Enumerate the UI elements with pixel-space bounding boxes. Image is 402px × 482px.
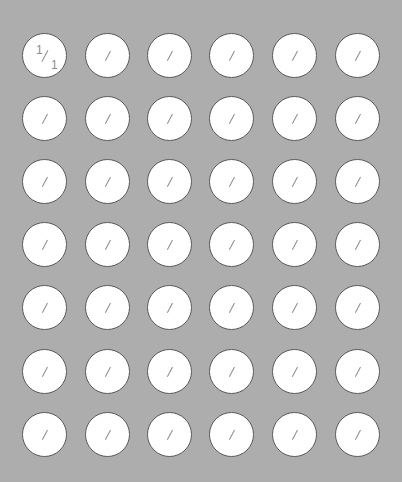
fraction-slash-icon	[228, 429, 234, 439]
fraction-slash-icon	[228, 176, 234, 186]
fraction-cell[interactable]	[209, 349, 254, 394]
fraction-slash-icon	[291, 50, 297, 60]
fraction-slash-icon	[291, 239, 297, 249]
fraction-cell[interactable]	[22, 285, 67, 330]
fraction-slash-icon	[228, 302, 234, 312]
fraction-slash-icon	[41, 429, 47, 439]
fraction-cell[interactable]	[147, 159, 192, 204]
fraction-slash-icon	[228, 239, 234, 249]
fraction-slash-icon	[228, 50, 234, 60]
fraction-slash-icon	[104, 366, 110, 376]
fraction-cell[interactable]	[147, 33, 192, 78]
fraction-cell[interactable]	[335, 285, 380, 330]
fraction-slash-icon	[166, 113, 172, 123]
fraction-slash-icon	[166, 176, 172, 186]
fraction-cell[interactable]	[335, 96, 380, 141]
fraction-cell[interactable]	[85, 159, 130, 204]
fraction-slash-icon	[291, 302, 297, 312]
fraction-cell[interactable]	[147, 96, 192, 141]
fraction-slash-icon	[291, 429, 297, 439]
fraction-slash-icon	[166, 429, 172, 439]
fraction-cell[interactable]	[335, 412, 380, 457]
fraction-slash-icon	[354, 366, 360, 376]
fraction-slash-icon	[354, 50, 360, 60]
fraction-slash-icon	[291, 176, 297, 186]
fraction-cell[interactable]	[22, 349, 67, 394]
fraction-cell[interactable]: 11	[22, 33, 67, 78]
fraction-cell[interactable]	[85, 33, 130, 78]
fraction-cell[interactable]	[22, 412, 67, 457]
fraction-slash-icon	[354, 113, 360, 123]
fraction-slash-icon	[41, 302, 47, 312]
fraction-cell[interactable]	[147, 222, 192, 267]
fraction-slash-icon	[104, 302, 110, 312]
fraction-slash-icon	[354, 302, 360, 312]
fraction-slash-icon	[104, 239, 110, 249]
fraction-cell[interactable]	[272, 349, 317, 394]
fraction-slash-icon	[354, 239, 360, 249]
fraction-cell[interactable]	[272, 33, 317, 78]
fraction-cell[interactable]	[85, 349, 130, 394]
fraction-slash-icon	[104, 429, 110, 439]
fraction-slash-icon	[291, 113, 297, 123]
fraction-slash-icon	[41, 113, 47, 123]
fraction-slash-icon	[104, 176, 110, 186]
fraction-cell[interactable]	[209, 159, 254, 204]
fraction-cell[interactable]	[147, 349, 192, 394]
fraction-slash-icon	[354, 176, 360, 186]
fraction-cell[interactable]	[335, 159, 380, 204]
fraction-cell[interactable]	[147, 285, 192, 330]
fraction-cell[interactable]	[22, 159, 67, 204]
fraction-slash-icon	[228, 113, 234, 123]
fraction-cell[interactable]	[272, 285, 317, 330]
fraction-cell[interactable]	[85, 96, 130, 141]
fraction-cell[interactable]	[272, 412, 317, 457]
fraction-slash-icon	[166, 239, 172, 249]
fraction-slash-icon	[166, 366, 172, 376]
fraction-cell[interactable]	[272, 222, 317, 267]
fraction-cell[interactable]	[272, 159, 317, 204]
numerator-text: 1	[36, 44, 43, 56]
fraction-cell[interactable]	[335, 349, 380, 394]
fraction-cell[interactable]	[85, 222, 130, 267]
fraction-cell[interactable]	[22, 96, 67, 141]
fraction-cell[interactable]	[209, 96, 254, 141]
fraction-slash-icon	[354, 429, 360, 439]
denominator-text: 1	[51, 59, 58, 71]
fraction-cell[interactable]	[335, 222, 380, 267]
fraction-cell[interactable]	[272, 96, 317, 141]
fraction-slash-icon	[41, 239, 47, 249]
fraction-slash-icon	[166, 50, 172, 60]
fraction-cell[interactable]	[147, 412, 192, 457]
fraction-cell[interactable]	[209, 222, 254, 267]
fraction-cell[interactable]	[209, 285, 254, 330]
fraction-cell[interactable]	[85, 412, 130, 457]
fraction-slash-icon	[104, 50, 110, 60]
fraction-slash-icon	[41, 366, 47, 376]
fraction-slash-icon	[166, 302, 172, 312]
fraction-cell-grid: 11	[0, 0, 402, 482]
fraction-slash-icon	[41, 176, 47, 186]
fraction-slash-icon	[228, 366, 234, 376]
fraction-slash-icon	[104, 113, 110, 123]
fraction-cell[interactable]	[335, 33, 380, 78]
fraction-cell[interactable]	[22, 222, 67, 267]
fraction-slash-icon	[291, 366, 297, 376]
fraction-cell[interactable]	[209, 33, 254, 78]
fraction-cell[interactable]	[209, 412, 254, 457]
fraction-cell[interactable]	[85, 285, 130, 330]
